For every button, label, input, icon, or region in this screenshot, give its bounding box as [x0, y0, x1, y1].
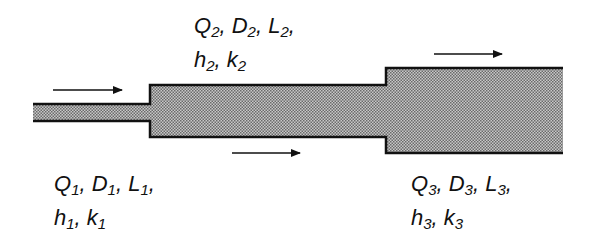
pipe2-label-line1: Q2, D2, L2, — [194, 12, 295, 46]
pipe1-label-line1: Q1, D1, L1, — [54, 170, 155, 204]
pipe1-label: Q1, D1, L1, h1, k1 — [54, 170, 155, 238]
pipe2-label-line2: h2, k2 — [194, 46, 295, 80]
pipe1-label-line2: h1, k1 — [54, 204, 155, 238]
pipe3-label: Q3, D3, L3, h3, k3 — [411, 170, 512, 238]
pipe3-label-line1: Q3, D3, L3, — [411, 170, 512, 204]
pipe3-label-line2: h3, k3 — [411, 204, 512, 238]
pipe-body — [33, 68, 563, 153]
pipe-series-diagram: Q1, D1, L1, h1, k1 Q2, D2, L2, h2, k2 Q3… — [0, 0, 594, 243]
pipe2-label: Q2, D2, L2, h2, k2 — [194, 12, 295, 80]
